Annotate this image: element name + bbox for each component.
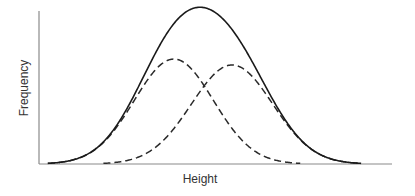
series-layer [48, 7, 361, 163]
y-axis-label: Frequency [17, 60, 31, 117]
chart: Height Frequency [0, 0, 415, 196]
x-axis-label: Height [183, 172, 218, 186]
series-component-a-line [48, 59, 300, 163]
plot-area [39, 7, 392, 164]
